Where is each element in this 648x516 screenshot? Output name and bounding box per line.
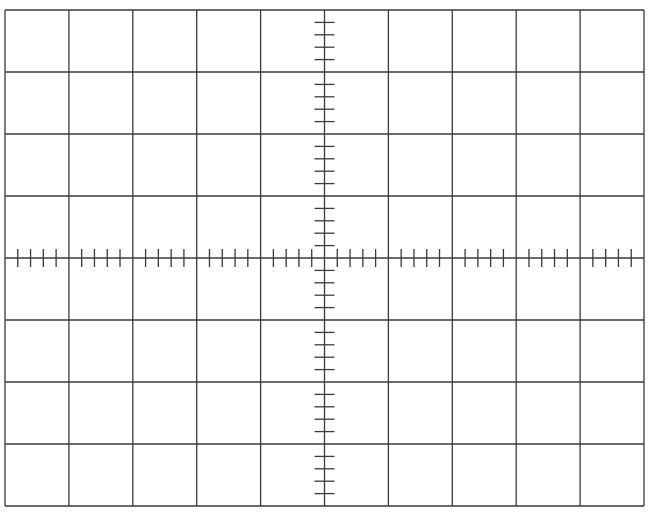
oscilloscope-graticule [0,0,648,516]
